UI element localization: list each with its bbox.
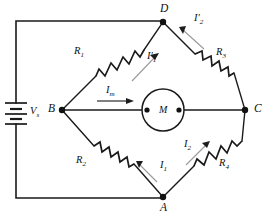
current-label-Im-subscript: m [110, 90, 115, 98]
wire-R3-to-C [234, 73, 245, 110]
current-label-I2-prime-subscript: 2 [200, 18, 204, 26]
circuit-svg-canvas [0, 0, 268, 216]
source-label: Vs [30, 106, 39, 117]
node-dot-A [160, 194, 166, 200]
node-label-D: D [160, 3, 168, 15]
wire-B-to-R1 [62, 76, 96, 110]
current-label-Im: Im [106, 85, 115, 96]
galvanometer-label: M [159, 105, 167, 115]
meter-terminal-left-dot [144, 107, 149, 112]
current-label-I2-prime: I′2 [194, 13, 203, 24]
current-arrow-I2-prime-shaft [183, 30, 204, 49]
current-label-I2-subscript: 2 [188, 144, 192, 152]
current-arrow-Im-head [126, 98, 134, 104]
circuit-diagram: D B C A Vs M R1 R3 R2 R4 I′1 I′2 Im I1 I… [0, 0, 268, 216]
node-dot-C [242, 107, 248, 113]
node-label-A: A [160, 202, 167, 214]
wire-B-to-R2 [62, 110, 94, 146]
wire-A-to-R4 [163, 166, 194, 197]
resistor-R4-symbol [194, 141, 242, 166]
wire-R1-to-D [144, 22, 163, 50]
resistor-label-R4: R4 [219, 158, 229, 169]
node-dot-B [59, 107, 65, 113]
resistor-label-R2-subscript: 2 [82, 160, 86, 168]
meter-terminal-right-dot [176, 107, 181, 112]
current-label-I1: I1 [160, 160, 167, 171]
current-arrow-Im [97, 98, 134, 104]
source-label-subscript: s [36, 111, 39, 119]
wire-R2-to-A [134, 164, 163, 197]
current-label-I1-prime-subscript: 1 [153, 56, 157, 64]
node-label-C: C [254, 103, 262, 115]
current-label-I1-prime: I′1 [147, 51, 156, 62]
resistor-R2-symbol [94, 142, 134, 167]
resistor-label-R3: R3 [216, 47, 226, 58]
resistor-label-R2: R2 [76, 155, 86, 166]
wire-battery-to-D [16, 21, 163, 103]
resistor-R1-symbol [96, 50, 144, 76]
current-label-I1-subscript: 1 [164, 165, 168, 173]
node-label-B: B [48, 103, 55, 115]
battery-symbol [5, 103, 27, 124]
resistor-R3-symbol [195, 51, 234, 76]
wire-R4-to-C [242, 110, 245, 141]
resistor-label-R1-subscript: 1 [80, 51, 84, 59]
current-arrow-I2-head [202, 141, 210, 148]
branch-B-C-galvanometer [62, 89, 245, 131]
current-arrow-I2-prime-head [179, 26, 186, 34]
resistor-label-R1: R1 [74, 46, 84, 57]
wire-D-to-R3 [163, 22, 195, 54]
current-label-I2: I2 [184, 139, 191, 150]
node-dot-D [160, 19, 166, 25]
resistor-label-R3-subscript: 3 [222, 52, 226, 60]
resistor-label-R4-subscript: 4 [225, 163, 229, 171]
current-arrow-I2-prime [179, 26, 204, 49]
